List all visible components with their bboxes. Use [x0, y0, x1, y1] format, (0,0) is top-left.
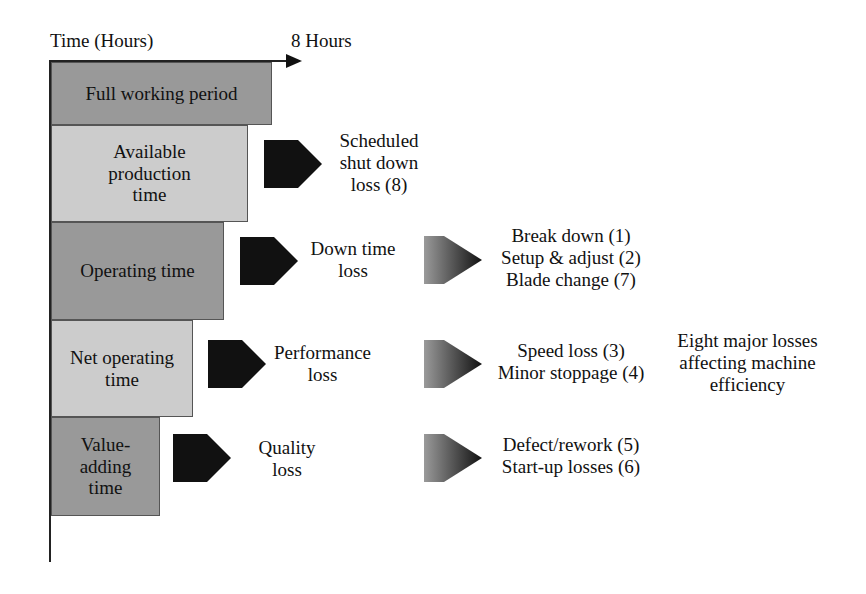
- loss-label-performance: Performance loss: [265, 342, 380, 386]
- quality-arrow-icon: [173, 434, 231, 482]
- detail-label-downtime: Break down (1) Setup & adjust (2) Blade …: [486, 225, 656, 291]
- loss-label-quality: Quality loss: [247, 437, 327, 481]
- time-axis-arrowhead-icon: [286, 54, 302, 68]
- loss-label-downtime: Down time loss: [298, 238, 408, 282]
- x-axis-end-label: 8 Hours: [291, 30, 352, 52]
- bar-available-production-time: Available production time: [51, 125, 248, 222]
- downtime-arrow-icon: [240, 237, 298, 285]
- performance-arrow-icon: [208, 340, 266, 388]
- bar-label: Available production time: [108, 141, 190, 207]
- bar-value-adding-time: Value- adding time: [51, 417, 160, 516]
- summary-label: Eight major losses affecting machine eff…: [665, 330, 830, 396]
- performance-detail-arrow-icon: [424, 340, 482, 388]
- loss-label-scheduled-shutdown: Scheduled shut down loss (8): [324, 130, 434, 196]
- downtime-detail-arrow-icon: [424, 236, 482, 284]
- bar-operating-time: Operating time: [51, 222, 224, 320]
- detail-label-quality: Defect/rework (5) Start-up losses (6): [486, 434, 656, 478]
- quality-detail-arrow-icon: [424, 434, 482, 482]
- bar-label: Value- adding time: [80, 434, 132, 500]
- detail-label-performance: Speed loss (3) Minor stoppage (4): [486, 340, 656, 384]
- bar-label: Full working period: [86, 83, 238, 105]
- scheduled-shutdown-arrow-icon: [264, 140, 322, 188]
- bar-net-operating-time: Net operating time: [51, 320, 193, 417]
- bar-full-working-period: Full working period: [51, 62, 272, 125]
- bar-label: Operating time: [80, 260, 195, 282]
- y-axis-label: Time (Hours): [50, 30, 153, 52]
- bar-label: Net operating time: [70, 347, 174, 391]
